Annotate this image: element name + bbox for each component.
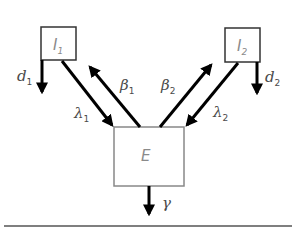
svg-text:λ1: λ1 [73,104,89,124]
beta2-arrow-icon [160,65,211,127]
edge-beta1: β1 [90,67,140,127]
node-I1-subscript: 1 [57,46,63,56]
edge-gamma: γ [149,186,171,214]
edge-d1: d1 [17,60,42,92]
compartment-diagram: I1 I2 E d1 d2 λ1 β1 β2 λ2 γ [0,0,298,230]
node-I1: I1 [41,27,76,60]
svg-text:λ2: λ2 [212,103,228,123]
svg-text:β2: β2 [160,76,175,96]
svg-text:d2: d2 [265,68,280,88]
svg-text:β1: β1 [119,76,134,96]
node-E: E [114,127,184,186]
svg-text:d1: d1 [17,67,32,87]
beta1-arrow-icon [90,67,140,127]
edge-beta2: β2 [160,65,211,127]
svg-text:γ: γ [162,194,171,212]
edge-lambda1: λ1 [62,61,112,125]
node-I2-subscript: 2 [241,47,247,57]
edge-d2: d2 [257,62,280,93]
node-I2: I2 [225,28,260,62]
edge-lambda2: λ2 [187,63,238,125]
node-E-symbol: E [141,147,151,165]
